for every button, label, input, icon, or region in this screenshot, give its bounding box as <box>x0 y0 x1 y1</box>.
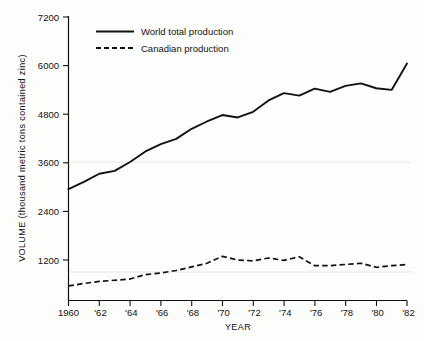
x-tick-label-1978: '78 <box>341 307 353 318</box>
x-tick-label-1964: '64 <box>125 307 137 318</box>
y-axis-title: VOLUME (thousand metric tons contained z… <box>17 54 27 262</box>
line-chart-plot: 7200 6000 4800 3600 2400 1200 1960 '62 '… <box>0 0 424 341</box>
x-tick-label-1972: '72 <box>248 307 260 318</box>
y-tick-label-6000: 6000 <box>38 60 59 71</box>
x-tick-label-1966: '66 <box>156 307 168 318</box>
y-tick-label-7200: 7200 <box>38 12 59 23</box>
y-axis-ticks: 7200 6000 4800 3600 2400 1200 <box>38 12 69 266</box>
series-line-world-total-production <box>69 64 408 190</box>
legend-label-world-total-production: World total production <box>141 26 233 37</box>
axis-frame <box>69 16 408 301</box>
y-tick-label-3600: 3600 <box>38 157 59 168</box>
x-tick-label-1970: '70 <box>218 307 230 318</box>
axis-lines <box>69 16 408 301</box>
x-tick-label-1980: '80 <box>372 307 384 318</box>
x-tick-label-1968: '68 <box>187 307 199 318</box>
x-tick-label-1962: '62 <box>94 307 106 318</box>
y-tick-label-4800: 4800 <box>38 109 59 120</box>
series-line-canadian-production <box>69 256 408 286</box>
x-tick-label-1960: 1960 <box>58 307 79 318</box>
y-tick-label-2400: 2400 <box>38 206 59 217</box>
y-tick-label-1200: 1200 <box>38 255 59 266</box>
legend-label-canadian-production: Canadian production <box>141 43 229 54</box>
x-tick-label-1974: '74 <box>279 307 291 318</box>
x-tick-label-1982: '82 <box>402 307 414 318</box>
x-tick-label-1976: '76 <box>310 307 322 318</box>
chart-container: 7200 6000 4800 3600 2400 1200 1960 '62 '… <box>0 0 424 341</box>
chart-legend: World total production Canadian producti… <box>96 26 233 54</box>
x-axis-ticks: 1960 '62 '64 '66 '68 '70 '72 '74 '76 '78… <box>58 301 415 319</box>
x-axis-title: YEAR <box>225 322 251 332</box>
